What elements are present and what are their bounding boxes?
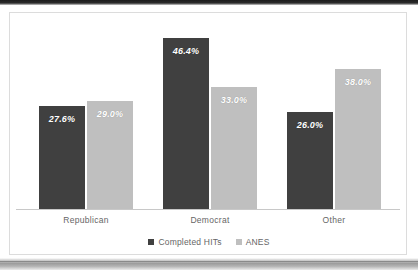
chart-frame: 27.6% 29.0% 46.4% 33.0% 26.0% (9, 12, 407, 255)
bar-other-anes[interactable]: 38.0% (335, 69, 381, 209)
chart-legend: Completed HITs ANES (10, 237, 408, 247)
legend-swatch-icon (236, 239, 242, 245)
bar-value-label: 46.4% (163, 46, 209, 56)
plot-area: 27.6% 29.0% 46.4% 33.0% 26.0% (24, 21, 396, 209)
bar-group-other: 26.0% 38.0% (278, 21, 390, 209)
bar-democrat-completed-hits[interactable]: 46.4% (163, 38, 209, 209)
legend-item-anes[interactable]: ANES (236, 237, 270, 247)
category-axis-labels: Republican Democrat Other (24, 215, 396, 225)
bar-value-label: 38.0% (335, 77, 381, 87)
scan-artifact-bottom (0, 258, 418, 270)
category-label-other: Other (278, 215, 390, 225)
bar-other-completed-hits[interactable]: 26.0% (287, 112, 333, 209)
legend-label: ANES (246, 237, 270, 247)
bar-value-label: 33.0% (211, 95, 257, 105)
bar-group-republican: 27.6% 29.0% (30, 21, 142, 209)
bar-democrat-anes[interactable]: 33.0% (211, 87, 257, 209)
bar-republican-completed-hits[interactable]: 27.6% (39, 106, 85, 209)
bar-value-label: 29.0% (87, 109, 133, 119)
bar-value-label: 26.0% (287, 120, 333, 130)
bar-value-label: 27.6% (39, 114, 85, 124)
category-label-republican: Republican (30, 215, 142, 225)
legend-label: Completed HITs (158, 237, 221, 247)
bar-republican-anes[interactable]: 29.0% (87, 101, 133, 209)
scan-artifact-top (0, 0, 418, 5)
category-label-democrat: Democrat (154, 215, 266, 225)
legend-item-completed-hits[interactable]: Completed HITs (148, 237, 221, 247)
legend-swatch-icon (148, 239, 154, 245)
x-axis-baseline (16, 209, 400, 210)
bar-group-democrat: 46.4% 33.0% (154, 21, 266, 209)
bar-groups: 27.6% 29.0% 46.4% 33.0% 26.0% (24, 21, 396, 209)
